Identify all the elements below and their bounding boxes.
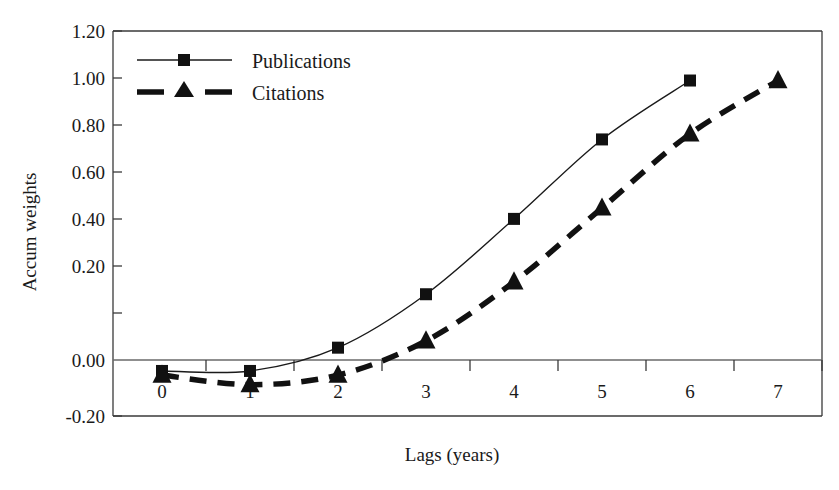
y-tick-label-0: 1.20 <box>72 21 105 42</box>
data-point-citations-lag-5 <box>593 197 612 215</box>
x-tick-label-2: 2 <box>333 381 343 402</box>
chart-page: 1.20 1.00 0.80 0.60 0.40 0.20 0.00 -0.20… <box>0 0 839 490</box>
data-point-citations-lag-7 <box>769 70 788 88</box>
data-point-publications-lag-5 <box>596 133 608 145</box>
legend-item-citations: Citations <box>137 81 324 104</box>
x-tick-label-7: 7 <box>773 381 783 402</box>
series-layer <box>153 70 788 392</box>
y-tick-label-3: 0.60 <box>72 162 105 183</box>
x-tick-label-4: 4 <box>509 381 519 402</box>
x-axis-title: Lags (years) <box>405 444 499 466</box>
y-tick-label-4: 0.40 <box>72 209 105 230</box>
series-line-publications <box>162 81 690 373</box>
legend-label-publications: Publications <box>252 50 351 72</box>
series-citations <box>153 70 788 392</box>
data-point-citations-lag-4 <box>505 271 524 289</box>
x-tick-label-5: 5 <box>597 381 607 402</box>
y-axis-title: Accum weights <box>19 173 40 292</box>
y-tick-label-6: 0.00 <box>72 350 105 371</box>
y-axis-tick-labels: 1.20 1.00 0.80 0.60 0.40 0.20 0.00 -0.20 <box>65 21 105 427</box>
data-point-publications-lag-3 <box>420 288 432 300</box>
legend-item-publications: Publications <box>137 50 351 72</box>
square-marker <box>178 54 190 66</box>
data-point-publications-lag-6 <box>684 75 696 87</box>
x-tick-label-6: 6 <box>685 381 695 402</box>
chart-legend: Publications Citations <box>137 50 351 104</box>
accum-weights-line-chart: 1.20 1.00 0.80 0.60 0.40 0.20 0.00 -0.20… <box>0 0 839 490</box>
y-axis-ticks <box>113 31 122 416</box>
data-point-publications-lag-2 <box>332 342 344 354</box>
y-tick-label-2: 0.80 <box>72 115 105 136</box>
data-point-citations-lag-3 <box>417 330 436 348</box>
y-tick-label-5: 0.20 <box>72 256 105 277</box>
legend-label-citations: Citations <box>252 82 324 104</box>
data-point-publications-lag-4 <box>508 213 520 225</box>
series-line-citations <box>162 81 778 385</box>
plot-frame <box>113 31 822 416</box>
triangle-marker <box>174 81 194 97</box>
y-tick-label-7: -0.20 <box>65 406 105 427</box>
x-tick-label-3: 3 <box>421 381 431 402</box>
x-tick-label-0: 0 <box>157 381 167 402</box>
y-tick-label-1: 1.00 <box>72 68 105 89</box>
